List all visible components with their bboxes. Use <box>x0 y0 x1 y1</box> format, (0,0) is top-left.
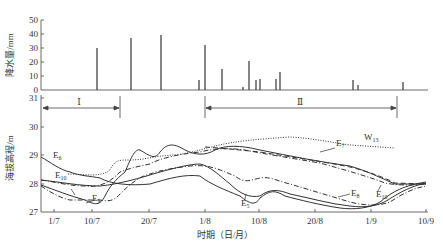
elev-tick-28: 28 <box>29 179 39 189</box>
series-w13 <box>68 137 395 175</box>
label-e5: E5 <box>241 198 250 209</box>
elevation-panel: 31 30 29 28 27 1/7 10/7 20/7 1/8 10/8 20… <box>4 93 434 240</box>
x-axis-label: 时期（日/月） <box>197 229 254 240</box>
x-tick-20-8: 20/8 <box>307 216 324 226</box>
period-markers <box>43 96 397 118</box>
rain-bars <box>97 35 403 90</box>
chart-figure: 50 40 30 20 10 0 降水量/mm <box>0 0 443 247</box>
x-tick-1-8: 1/8 <box>199 216 211 226</box>
label-e8: E8 <box>351 188 360 199</box>
label-e10-right: E10 <box>376 189 388 200</box>
elev-tick-29: 29 <box>29 150 39 160</box>
elev-y-label: 海拔高程/m <box>4 135 15 181</box>
rain-tick-40: 40 <box>29 29 39 39</box>
label-e9: E9 <box>92 193 101 204</box>
x-tick-20-7: 20/7 <box>141 216 158 226</box>
series-e10 <box>41 149 426 187</box>
elev-tick-27: 27 <box>29 207 39 217</box>
rain-tick-30: 30 <box>29 43 39 53</box>
elev-tick-31: 31 <box>29 93 38 103</box>
rain-y-label: 降水量/mm <box>4 33 15 77</box>
rain-tick-50: 50 <box>29 15 39 25</box>
x-tick-10-7: 10/7 <box>84 216 101 226</box>
period-2-label: Ⅱ <box>297 97 303 107</box>
x-tick-1-7: 1/7 <box>48 216 60 226</box>
label-w13: W13 <box>364 132 379 143</box>
rain-tick-20: 20 <box>29 57 39 67</box>
label-e6: E6 <box>53 150 62 161</box>
period-1-label: Ⅰ <box>77 97 81 107</box>
rain-tick-10: 10 <box>29 71 39 81</box>
label-e10-left: E10 <box>55 170 67 181</box>
x-tick-10-9: 10/9 <box>418 216 435 226</box>
label-e7: E7 <box>336 138 345 149</box>
x-tick-10-8: 10/8 <box>251 216 268 226</box>
elev-tick-30: 30 <box>29 122 39 132</box>
rainfall-panel: 50 40 30 20 10 0 降水量/mm <box>4 15 428 95</box>
x-tick-1-9: 1/9 <box>365 216 377 226</box>
